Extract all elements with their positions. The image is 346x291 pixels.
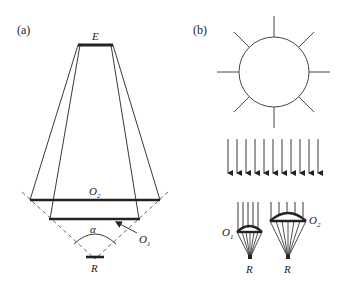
parachute-collector-o1 [237, 202, 262, 259]
sun-icon [217, 16, 330, 128]
receiver-1-label-r: R [245, 263, 253, 275]
receiver-label-r: R [90, 262, 98, 274]
inner-cone-right [111, 45, 139, 219]
parachute-o2-label: O2 [309, 214, 321, 229]
angle-arc [74, 234, 116, 244]
panel-b-label: (b) [193, 23, 207, 37]
panel-a-label: (a) [17, 23, 30, 37]
parallel-ray-arrows [228, 139, 318, 173]
screen-o2-label: O2 [89, 185, 101, 200]
figure-canvas: (a) E O2 O1 α R (b) [0, 0, 346, 291]
parachute-o1-label: O1 [222, 226, 233, 241]
receiver-2-label-r: R [283, 263, 291, 275]
source-label-e: E [91, 30, 99, 42]
outer-cone-right [113, 45, 160, 200]
angle-line-left [22, 192, 95, 259]
outer-cone-left [30, 45, 78, 200]
screen-o1-pointer-arrow [118, 223, 137, 233]
inner-cone-left [50, 45, 80, 219]
panel-a: (a) E O2 O1 α R [17, 23, 168, 274]
screen-o1-label: O1 [139, 233, 150, 248]
panel-b: (b) [193, 16, 330, 275]
angle-label-alpha: α [90, 223, 96, 235]
angle-line-right [95, 192, 168, 259]
parachute-collector-o2 [270, 202, 306, 259]
